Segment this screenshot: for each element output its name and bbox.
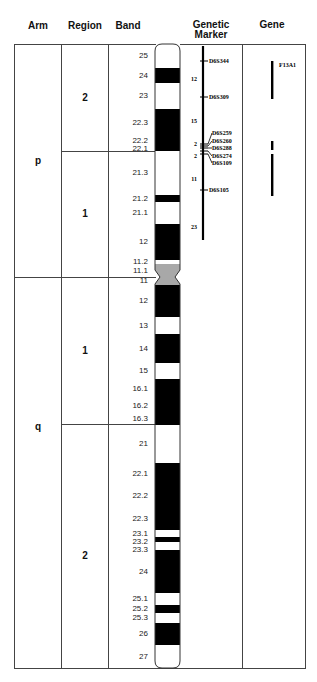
band-p11-2 [153,260,182,264]
band-q22-2 [153,485,182,507]
band-q22-3 [153,507,182,530]
band-p22-1 [153,144,182,151]
marker-label: D6S105 [209,187,229,193]
gene-segment [271,154,273,196]
marker-distance-label: 2 [194,141,197,147]
band-q16-1 [153,379,182,399]
band-q13 [153,317,182,334]
marker-distance-label: 15 [191,118,197,124]
band-p21-1 [153,202,182,224]
band-q16-3 [153,412,182,425]
band-p21-3 [153,151,182,195]
band-p11-1 [153,264,182,277]
band-q25-2 [153,605,182,613]
gene-segment [271,141,273,150]
marker-label: D6S259 [212,130,232,136]
band-q25-1 [153,593,182,605]
band-q24 [153,550,182,593]
band-q12 [153,285,182,317]
marker-label: D6S288 [212,145,232,151]
marker-distance-label: 11 [191,176,197,182]
chromosome-diagram: D6S344D6S309D6S259D6S260D6S288D6S274D6S1… [0,0,317,682]
marker-label: D6S344 [209,58,229,64]
marker-label: D6S274 [212,153,232,159]
marker-distance-label: 12 [191,76,197,82]
band-p24 [153,68,182,83]
band-q27 [153,645,182,668]
band-p22-2 [153,137,182,144]
gene-label: F13A1 [279,62,296,68]
marker-distance-label: 2 [194,153,197,159]
band-q26 [153,623,182,645]
marker-label: D6S109 [212,160,232,166]
band-q22-1 [153,463,182,485]
chromosome-bands [153,44,182,668]
band-q23-2 [153,537,182,542]
genetic-markers: D6S344D6S309D6S259D6S260D6S288D6S274D6S1… [191,46,232,240]
band-q14 [153,334,182,363]
band-q25-3 [153,613,182,623]
band-q16-2 [153,399,182,412]
marker-label: D6S260 [212,138,232,144]
gene-map: F13A1 [271,61,296,196]
marker-distance-label: 23 [191,224,197,230]
marker-label: D6S309 [209,94,229,100]
band-p25 [153,44,182,68]
band-p22-3 [153,109,182,137]
band-p23 [153,83,182,109]
band-q15 [153,363,182,379]
gene-segment [271,61,273,99]
band-p21-2 [153,195,182,202]
band-q23-3 [153,542,182,550]
band-q23-1 [153,530,182,537]
band-p12 [153,224,182,260]
band-q21 [153,425,182,463]
